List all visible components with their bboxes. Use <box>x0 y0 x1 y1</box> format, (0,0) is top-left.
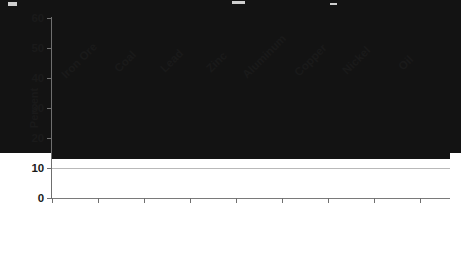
y-tick-label-0: 0 <box>0 192 44 204</box>
x-tick-mark <box>52 198 53 203</box>
y-tick-label-20: 20 <box>0 132 44 144</box>
x-tick-mark <box>236 198 237 203</box>
bar-chart: 60 50 40 30 20 10 0 Percent Iron <box>0 0 461 153</box>
x-tick-mark <box>190 198 191 203</box>
y-tick-label-10: 10 <box>0 162 44 174</box>
x-tick-mark <box>328 198 329 203</box>
gridline-0-baseline <box>52 198 450 199</box>
plot-area: 60 50 40 30 20 10 0 Percent Iron <box>52 18 450 198</box>
bar-copper <box>298 129 319 159</box>
bar-series <box>52 18 450 159</box>
gridline-10 <box>52 168 450 169</box>
x-tick-mark <box>98 198 99 203</box>
x-tick-mark <box>420 198 421 203</box>
y-tick-label-60: 60 <box>0 12 44 24</box>
scan-artifact <box>232 1 245 4</box>
scan-artifact <box>330 3 337 5</box>
y-tick-label-50: 50 <box>0 42 44 54</box>
x-tick-mark <box>144 198 145 203</box>
x-tick-mark <box>282 198 283 203</box>
y-axis-title: Percent <box>28 88 40 128</box>
scan-artifact <box>8 2 17 6</box>
y-tick-mark-10 <box>47 168 52 169</box>
bar-oil <box>390 129 411 159</box>
x-tick-mark <box>374 198 375 203</box>
y-tick-label-40: 40 <box>0 72 44 84</box>
